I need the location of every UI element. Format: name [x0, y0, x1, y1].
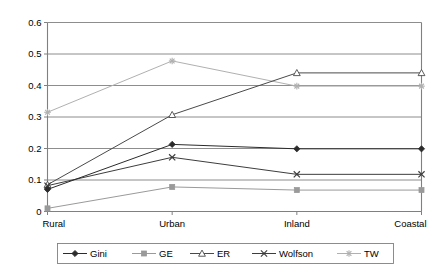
- legend-label: Gini: [90, 248, 107, 259]
- data-point-marker: [44, 109, 51, 116]
- x-category-label: Coastal: [394, 218, 426, 229]
- y-tick-label: 0: [36, 206, 41, 217]
- data-point-marker: [418, 83, 425, 90]
- y-tick-label: 0.4: [28, 80, 41, 91]
- data-point-marker: [170, 184, 175, 189]
- chart-canvas: 00.10.20.30.40.50.6RuralUrbanInlandCoast…: [0, 0, 447, 272]
- data-point-marker: [419, 188, 424, 193]
- legend-label: ER: [217, 248, 230, 259]
- x-axis-ticks: RuralUrbanInlandCoastal: [43, 212, 427, 229]
- y-tick-label: 0.1: [28, 174, 41, 185]
- data-point-marker: [169, 58, 176, 65]
- y-tick-label: 0.2: [28, 143, 41, 154]
- x-category-label: Urban: [159, 218, 185, 229]
- legend-label: Wolfson: [279, 248, 313, 259]
- y-tick-label: 0.3: [28, 111, 41, 122]
- legend-label: GE: [159, 248, 173, 259]
- y-tick-label: 0.6: [28, 17, 41, 28]
- data-point-marker: [294, 188, 299, 193]
- data-point-marker: [294, 83, 301, 90]
- x-category-label: Rural: [43, 218, 66, 229]
- legend-marker: [142, 251, 147, 256]
- data-point-marker: [45, 206, 50, 211]
- x-category-label: Inland: [284, 218, 310, 229]
- legend-marker: [346, 250, 353, 257]
- line-chart: 00.10.20.30.40.50.6RuralUrbanInlandCoast…: [0, 0, 447, 272]
- legend-label: TW: [364, 248, 379, 259]
- y-tick-label: 0.5: [28, 48, 41, 59]
